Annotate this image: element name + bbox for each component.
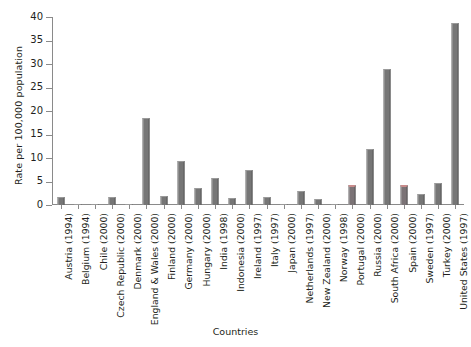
x-tick-mark [438, 205, 439, 209]
bar[interactable] [177, 161, 184, 205]
bar[interactable] [57, 197, 64, 205]
x-tick-mark [387, 205, 388, 209]
x-tick-label: Czech Republic (2000) [116, 213, 125, 318]
x-tick-label: India (1998) [219, 213, 228, 270]
x-tick-mark [301, 205, 302, 209]
bar-slot[interactable] [327, 17, 344, 205]
x-axis-title: Countries [0, 326, 471, 337]
y-tick-label: 15 [30, 128, 43, 140]
bar-chart: Rate per 100,000 population 051015202530… [0, 0, 471, 347]
bar[interactable] [109, 197, 116, 205]
bar-slot[interactable] [275, 17, 292, 205]
x-tick-label: Ireland (1997) [253, 213, 262, 279]
x-tick-label: Finland (2000) [167, 213, 176, 280]
bar-slot[interactable] [430, 17, 447, 205]
x-tick-mark [421, 205, 422, 209]
plot-area: 0510152025303540 Austria (1994)Belgium (… [52, 17, 464, 205]
bar-slot[interactable] [207, 17, 224, 205]
x-tick-mark [215, 205, 216, 209]
bar[interactable] [194, 188, 201, 205]
bar-slot[interactable] [241, 17, 258, 205]
bar-slot[interactable] [344, 17, 361, 205]
bar[interactable] [435, 183, 442, 205]
x-tick-mark [146, 205, 147, 209]
bar-slot[interactable] [138, 17, 155, 205]
bar-slot[interactable] [155, 17, 172, 205]
x-tick-label: New Zealand (2000) [322, 213, 331, 308]
y-tick-label: 40 [30, 11, 43, 23]
y-tick-label: 25 [30, 81, 43, 93]
x-tick-label: Hungary (2000) [202, 213, 211, 287]
y-tick-label: 10 [30, 152, 43, 164]
x-tick-mark [249, 205, 250, 209]
x-tick-mark [232, 205, 233, 209]
x-tick-mark [164, 205, 165, 209]
x-tick-label: Russia (2000) [373, 213, 382, 277]
x-tick-label: Chile (2000) [99, 213, 108, 270]
x-tick-label: Denmark (2000) [133, 213, 142, 290]
bar-slot[interactable] [224, 17, 241, 205]
x-tick-mark [95, 205, 96, 209]
bar-slot[interactable] [447, 17, 464, 205]
x-tick-mark [61, 205, 62, 209]
x-tick-label: England & Wales (2000) [150, 213, 159, 325]
bar[interactable] [160, 196, 167, 205]
bar-slot[interactable] [258, 17, 275, 205]
bar[interactable] [400, 185, 407, 205]
bar-slot[interactable] [189, 17, 206, 205]
x-tick-mark [404, 205, 405, 209]
bar-slot[interactable] [413, 17, 430, 205]
x-tick-label: United States (1997) [459, 213, 468, 310]
bar[interactable] [349, 185, 356, 205]
bars-layer [52, 17, 464, 205]
y-tick-label: 5 [37, 175, 43, 187]
x-tick-label: Belgium (1994) [81, 213, 90, 285]
x-tick-mark [129, 205, 130, 209]
bar[interactable] [452, 23, 459, 205]
y-tick-label: 30 [30, 58, 43, 70]
bar[interactable] [383, 69, 390, 205]
x-tick-mark [370, 205, 371, 209]
x-tick-label: South Africa (2000) [390, 213, 399, 303]
bar-slot[interactable] [52, 17, 69, 205]
bar[interactable] [143, 118, 150, 205]
bar-slot[interactable] [69, 17, 86, 205]
bar[interactable] [297, 191, 304, 205]
x-tick-mark [455, 205, 456, 209]
bar-slot[interactable] [378, 17, 395, 205]
bar-slot[interactable] [104, 17, 121, 205]
x-tick-mark [284, 205, 285, 209]
bar[interactable] [418, 194, 425, 205]
x-tick-label: Portugal (2000) [356, 213, 365, 285]
x-tick-label: Norway (1998) [339, 213, 348, 282]
y-tick-label: 20 [30, 105, 43, 117]
x-tick-label: Netherlands (1997) [305, 213, 314, 304]
x-tick-label: Germany (2000) [184, 213, 193, 290]
x-tick-mark [78, 205, 79, 209]
x-tick-label: Japan (2000) [287, 213, 296, 273]
bar[interactable] [263, 197, 270, 205]
x-tick-mark [198, 205, 199, 209]
bar-slot[interactable] [395, 17, 412, 205]
y-tick-label: 0 [37, 199, 43, 211]
x-tick-mark [335, 205, 336, 209]
bar[interactable] [229, 198, 236, 205]
bar-slot[interactable] [361, 17, 378, 205]
x-tick-label: Sweden (1997) [425, 213, 434, 284]
bar[interactable] [366, 149, 373, 205]
x-tick-label: Spain (2000) [408, 213, 417, 273]
x-tick-label: Indonesia (2000) [236, 213, 245, 292]
y-tick-label: 35 [30, 34, 43, 46]
x-tick-mark [318, 205, 319, 209]
bar-slot[interactable] [86, 17, 103, 205]
bar-slot[interactable] [121, 17, 138, 205]
x-tick-label: Italy (1997) [270, 213, 279, 267]
bar-slot[interactable] [172, 17, 189, 205]
x-tick-mark [112, 205, 113, 209]
bar[interactable] [212, 178, 219, 205]
bar-slot[interactable] [310, 17, 327, 205]
x-tick-mark [267, 205, 268, 209]
bar-slot[interactable] [292, 17, 309, 205]
x-tick-label: Austria (1994) [64, 213, 73, 280]
bar[interactable] [246, 170, 253, 205]
